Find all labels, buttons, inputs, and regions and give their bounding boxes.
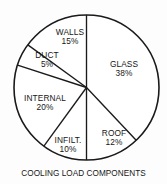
pie-slice-value-roof: 12% [92,138,136,147]
pie-slice-label-duct: DUCT 5% [27,51,67,69]
pie-slice-label-internal: INTERNAL 20% [14,94,76,112]
pie-slice-label-walls: WALLS 15% [45,28,95,46]
pie-slice-value-duct: 5% [27,60,67,69]
pie-slice-label-roof: ROOF 12% [92,129,136,147]
pie-slice-value-infiltration: 10% [46,145,90,154]
pie-slice-value-walls: 15% [45,37,95,46]
pie-slice-value-internal: 20% [14,103,76,112]
pie-slice-label-infiltration: INFILT. 10% [46,136,90,154]
pie-slice-value-glass: 38% [99,69,149,78]
figure-caption: COOLING LOAD COMPONENTS [0,169,167,178]
pie-slice-label-glass: GLASS 38% [99,60,149,78]
cooling-load-pie-figure: GLASS 38% ROOF 12% INFILT. 10% INTERNAL … [0,0,167,184]
